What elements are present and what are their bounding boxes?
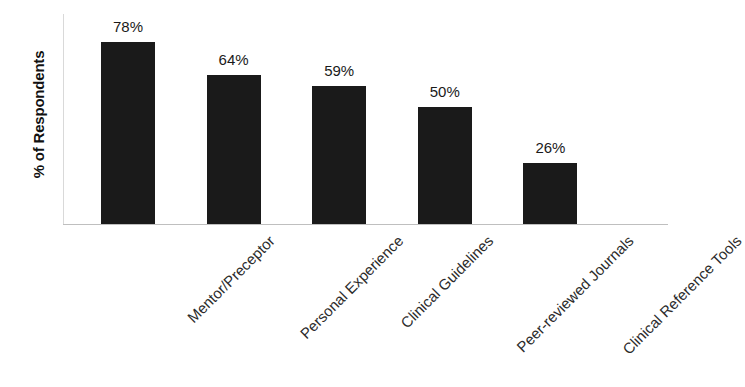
- bar-value-label: 59%: [299, 62, 379, 79]
- bar-value-label: 26%: [510, 139, 590, 156]
- x-axis-category-label: Clinical Reference Tools: [619, 232, 745, 358]
- bar-value-label: 78%: [88, 18, 168, 35]
- bar: [312, 86, 366, 224]
- plot-area: 9080706050403020100 78%64%59%50%26%: [63, 8, 668, 224]
- bar: [523, 163, 577, 224]
- x-axis-category-label: Clinical Guidelines: [397, 232, 496, 331]
- bar-value-label: 50%: [405, 83, 485, 100]
- bar: [207, 75, 261, 224]
- x-axis-category-label: Mentor/Preceptor: [184, 232, 278, 326]
- bar-value-label: 64%: [194, 51, 274, 68]
- x-axis-category-label: Personal Experience: [296, 232, 406, 342]
- bar: [101, 42, 155, 224]
- x-axis-line: [63, 224, 668, 225]
- x-axis-category-label: Peer-reviewed Journals: [513, 232, 636, 355]
- y-axis-line: [63, 14, 64, 225]
- y-axis-title: % of Respondents: [30, 20, 47, 210]
- bar: [418, 107, 472, 224]
